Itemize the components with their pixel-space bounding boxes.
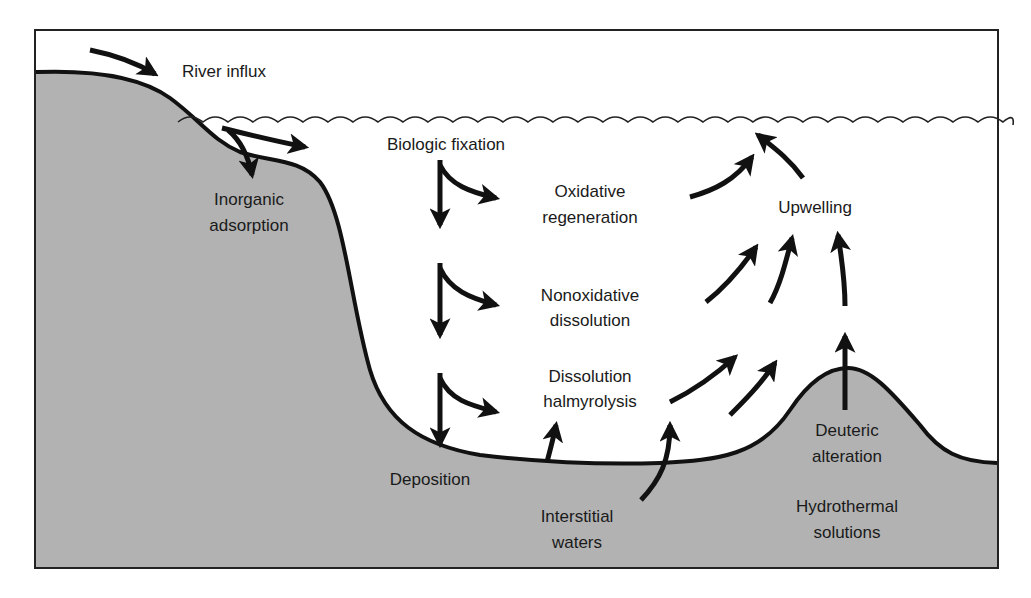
svg-text:Inorganic: Inorganic	[214, 190, 284, 209]
label-deposition: Deposition	[390, 470, 470, 489]
label-upwelling: Upwelling	[778, 198, 852, 217]
svg-text:adsorption: adsorption	[209, 216, 288, 235]
label-biologic-fixation: Biologic fixation	[387, 135, 505, 154]
svg-text:dissolution: dissolution	[550, 311, 630, 330]
svg-text:regeneration: regeneration	[542, 208, 637, 227]
svg-text:waters: waters	[551, 533, 602, 552]
svg-text:Nonoxidative: Nonoxidative	[541, 286, 639, 305]
svg-text:Deuteric: Deuteric	[815, 421, 879, 440]
svg-text:alteration: alteration	[812, 447, 882, 466]
svg-text:Oxidative: Oxidative	[555, 182, 626, 201]
ocean-geochemical-cycle-diagram: River influx Biologic fixation Inorganic…	[0, 0, 1031, 598]
svg-text:solutions: solutions	[813, 523, 880, 542]
svg-text:halmyrolysis: halmyrolysis	[543, 392, 637, 411]
label-river-influx: River influx	[182, 62, 267, 81]
svg-text:Interstitial: Interstitial	[541, 507, 614, 526]
svg-text:Dissolution: Dissolution	[548, 367, 631, 386]
svg-text:Hydrothermal: Hydrothermal	[796, 497, 898, 516]
